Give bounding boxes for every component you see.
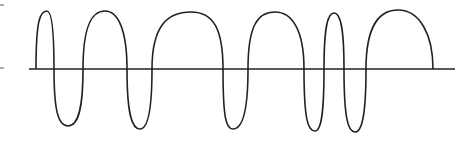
waveform-diagram: [0, 0, 474, 141]
signal-waveform: [36, 10, 433, 132]
